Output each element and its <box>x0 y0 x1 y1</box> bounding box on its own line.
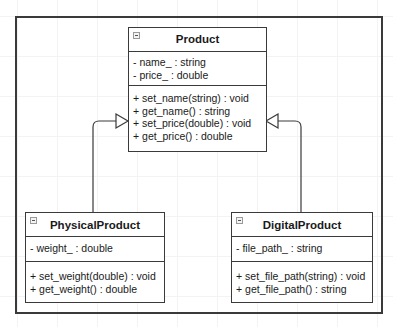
attribute: - price_ : double <box>133 69 266 82</box>
method: + get_weight() : double <box>30 283 164 296</box>
class-physical-product[interactable]: PhysicalProduct - weight_ : double + set… <box>25 212 165 303</box>
method: + set_weight(double) : void <box>30 270 164 283</box>
class-header: Product <box>129 28 266 52</box>
class-digital-product[interactable]: DigitalProduct - file_path_ : string + s… <box>231 212 373 303</box>
attribute: - file_path_ : string <box>236 242 372 255</box>
method: + set_name(string) : void <box>133 92 266 105</box>
methods-section: + set_weight(double) : void + get_weight… <box>26 262 164 295</box>
attributes-section: - name_ : string - price_ : double <box>129 52 266 86</box>
methods-section: + set_name(string) : void + get_name() :… <box>129 86 266 142</box>
attribute: - name_ : string <box>133 56 266 69</box>
class-name: DigitalProduct <box>232 219 372 232</box>
attribute: - weight_ : double <box>30 242 164 255</box>
collapse-minus-icon[interactable] <box>30 217 37 224</box>
class-header: PhysicalProduct <box>26 213 164 237</box>
attributes-section: - file_path_ : string <box>232 237 372 262</box>
method: + get_name() : string <box>133 105 266 118</box>
attributes-section: - weight_ : double <box>26 237 164 262</box>
methods-section: + set_file_path(string) : void + get_fil… <box>232 262 372 295</box>
class-name: Product <box>129 33 266 46</box>
class-header: DigitalProduct <box>232 213 372 237</box>
class-product[interactable]: Product - name_ : string - price_ : doub… <box>128 27 267 152</box>
method: + get_price() : double <box>133 130 266 143</box>
method: + set_price(double) : void <box>133 117 266 130</box>
collapse-minus-icon[interactable] <box>236 217 243 224</box>
method: + set_file_path(string) : void <box>236 270 372 283</box>
method: + get_file_path() : string <box>236 283 372 296</box>
class-name: PhysicalProduct <box>26 219 164 232</box>
collapse-minus-icon[interactable] <box>133 32 140 39</box>
